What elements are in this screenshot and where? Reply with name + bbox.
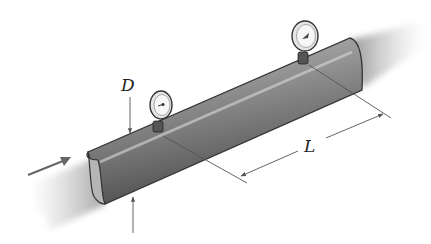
diameter-label: D (120, 75, 135, 95)
pipe-flow-diagram: L D (0, 0, 431, 244)
length-label: L (303, 136, 315, 156)
pipe (87, 38, 362, 204)
